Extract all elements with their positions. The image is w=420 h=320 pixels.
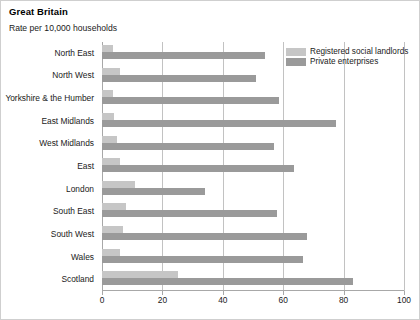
category-label: East Midlands xyxy=(41,116,94,126)
category-label: North West xyxy=(52,70,94,80)
chart-container: Great Britain Rate per 10,000 households… xyxy=(0,0,420,320)
legend-item: Private enterprises xyxy=(286,57,408,67)
chart-subtitle: Rate per 10,000 households xyxy=(9,23,117,33)
x-axis-ticks xyxy=(102,42,404,291)
chart-legend: Registered social landlordsPrivate enter… xyxy=(286,47,408,67)
gridline xyxy=(404,42,405,291)
x-tick-label: 60 xyxy=(279,295,288,305)
legend-item: Registered social landlords xyxy=(286,47,408,57)
category-label: Wales xyxy=(71,252,94,262)
category-label: South West xyxy=(51,229,94,239)
x-tick-label: 20 xyxy=(158,295,167,305)
legend-swatch xyxy=(286,48,306,56)
chart-title: Great Britain xyxy=(9,6,68,17)
x-tick-label: 80 xyxy=(339,295,348,305)
plot-area xyxy=(102,42,404,291)
category-label: West Midlands xyxy=(39,138,94,148)
category-label: East xyxy=(77,161,94,171)
category-label: London xyxy=(66,184,94,194)
x-tick-label: 40 xyxy=(218,295,227,305)
legend-swatch xyxy=(286,58,306,66)
category-label: Scotland xyxy=(61,274,94,284)
legend-label: Registered social landlords xyxy=(310,47,408,57)
category-label: Yorkshire & the Humber xyxy=(5,93,94,103)
category-label: South East xyxy=(53,206,94,216)
category-label: North East xyxy=(54,48,94,58)
x-tick-label: 100 xyxy=(397,295,411,305)
legend-label: Private enterprises xyxy=(310,57,378,67)
x-tick-label: 0 xyxy=(100,295,105,305)
